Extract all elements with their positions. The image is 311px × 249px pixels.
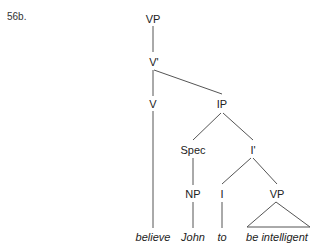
word-be-intelligent: be intelligent <box>246 231 309 243</box>
syntax-tree: VP V' V IP Spec I' NP I VP believe John … <box>0 0 311 249</box>
node-i: I <box>220 188 223 200</box>
node-v-bar: V' <box>149 56 158 68</box>
word-believe: believe <box>136 231 171 243</box>
node-vp-lower: VP <box>270 188 285 200</box>
word-john: John <box>180 231 205 243</box>
edge-vbar-ip <box>154 70 222 94</box>
node-i-bar: I' <box>250 144 255 156</box>
node-vp-root: VP <box>146 13 161 25</box>
edge-ibar-vp <box>253 158 277 184</box>
vp-triangle <box>247 202 310 227</box>
tree-edges <box>153 26 310 228</box>
node-ip: IP <box>217 98 227 110</box>
word-to: to <box>217 231 226 243</box>
node-v: V <box>149 98 157 110</box>
edge-ip-ibar <box>223 113 253 140</box>
edge-ibar-i <box>222 158 251 184</box>
node-np: NP <box>185 188 200 200</box>
node-spec: Spec <box>180 144 206 156</box>
edge-ip-spec <box>193 113 221 140</box>
